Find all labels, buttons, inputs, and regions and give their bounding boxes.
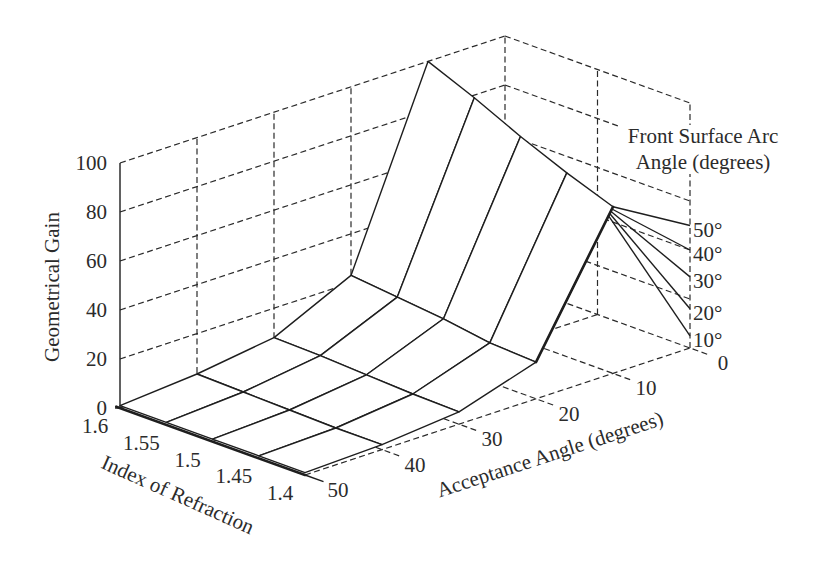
acceptance-tick-label: 0: [718, 351, 729, 375]
chart-canvas: 10°20°30°40°50°0204060801001.61.551.51.4…: [0, 0, 821, 571]
gain-tick-label: 40: [86, 298, 107, 322]
arc-angle-tick-label: 20°: [693, 301, 722, 325]
acceptance-tick-label: 50: [328, 478, 349, 502]
acceptance-tick-label: 30: [482, 427, 503, 451]
index-tick-label: 1.4: [267, 481, 294, 505]
gain-tick-label: 20: [86, 347, 107, 371]
arc-angle-tick-label: 50°: [693, 218, 722, 242]
arc-angle-tick-label: 30°: [693, 269, 722, 293]
index-tick-label: 1.6: [82, 414, 108, 438]
gain-tick-label: 60: [86, 249, 107, 273]
index-tick-label: 1.45: [215, 464, 252, 488]
arc-angle-title-line2: Angle (degrees): [636, 150, 771, 174]
gain-tick-label: 100: [76, 151, 108, 175]
acceptance-tick-label: 10: [636, 376, 657, 400]
z-axis-title: Geometrical Gain: [40, 212, 64, 362]
arc-angle-tick-label: 10°: [693, 328, 722, 352]
index-tick-label: 1.5: [174, 448, 200, 472]
arc-angle-tick-label: 40°: [693, 242, 722, 266]
arc-angle-axis-title: Front Surface Arc Angle (degrees): [621, 124, 789, 174]
acceptance-tick-label: 20: [559, 402, 580, 426]
index-tick-label: 1.55: [123, 431, 160, 455]
gain-tick-label: 80: [86, 200, 107, 224]
arc-angle-title-line1: Front Surface Arc: [628, 124, 778, 148]
acceptance-tick-label: 40: [405, 453, 426, 477]
